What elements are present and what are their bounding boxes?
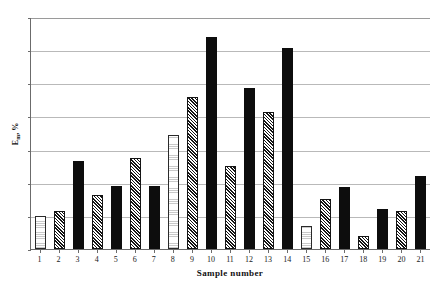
x-axis-tick-mark: [420, 250, 421, 253]
x-axis-tick-label: 12: [245, 255, 253, 264]
x-axis-tick-label: 17: [340, 255, 348, 264]
bar: [263, 112, 274, 249]
x-axis-tick-label: 9: [190, 255, 194, 264]
x-axis-tick-mark: [230, 250, 231, 253]
bar: [206, 37, 217, 249]
bar: [415, 176, 426, 249]
x-axis-tick-mark: [249, 250, 250, 253]
x-axis-tick-mark: [401, 250, 402, 253]
x-axis-tick-label: 16: [321, 255, 329, 264]
x-axis-tick: 12: [240, 250, 259, 266]
x-axis-tick-label: 15: [302, 255, 310, 264]
x-axis-tick: 9: [182, 250, 201, 266]
x-axis-tick-label: 6: [133, 255, 137, 264]
bar-slot: [31, 18, 50, 249]
x-axis-tick: 13: [259, 250, 278, 266]
x-axis-tick: 4: [87, 250, 106, 266]
bar-slot: [354, 18, 373, 249]
x-axis-tick-label: 11: [226, 255, 234, 264]
x-axis-tick: 11: [220, 250, 239, 266]
x-axis-tick: 15: [297, 250, 316, 266]
bar: [92, 195, 103, 249]
x-axis-tick-label: 7: [152, 255, 156, 264]
bar-slot: [240, 18, 259, 249]
x-axis-tick-mark: [116, 250, 117, 253]
bar-slot: [221, 18, 240, 249]
bar: [73, 161, 84, 249]
bar: [187, 97, 198, 249]
bar-chart: Em, % 05101520253035 1234567891011121314…: [0, 0, 438, 290]
bar: [168, 135, 179, 249]
bar-slot: [183, 18, 202, 249]
bar-slot: [202, 18, 221, 249]
x-axis-tick-label: 1: [38, 255, 42, 264]
x-axis-tick: 16: [316, 250, 335, 266]
bar: [339, 187, 350, 249]
bar-slot: [145, 18, 164, 249]
bar-slot: [107, 18, 126, 249]
bar-series: [31, 18, 430, 249]
x-axis-tick-label: 10: [207, 255, 215, 264]
x-axis-tick-mark: [382, 250, 383, 253]
bar-slot: [278, 18, 297, 249]
bar: [301, 226, 312, 249]
x-axis-tick-mark: [97, 250, 98, 253]
x-axis-tick-mark: [192, 250, 193, 253]
x-axis-tick: 7: [144, 250, 163, 266]
x-axis-tick: 3: [68, 250, 87, 266]
x-axis-tick: 19: [373, 250, 392, 266]
x-axis-tick: 1: [30, 250, 49, 266]
x-axis-ticks: 123456789101112131415161718192021: [30, 250, 430, 266]
bar: [225, 166, 236, 249]
x-axis-tick-label: 3: [76, 255, 80, 264]
x-axis-tick-label: 20: [397, 255, 405, 264]
x-axis-tick-mark: [135, 250, 136, 253]
x-axis-tick-mark: [325, 250, 326, 253]
bar-slot: [335, 18, 354, 249]
x-axis-tick-label: 21: [416, 255, 424, 264]
x-axis-tick-label: 14: [283, 255, 291, 264]
bar-slot: [373, 18, 392, 249]
x-axis-tick: 10: [201, 250, 220, 266]
x-axis-tick-mark: [306, 250, 307, 253]
bar: [149, 186, 160, 249]
bar-slot: [126, 18, 145, 249]
bar-slot: [50, 18, 69, 249]
x-axis-tick-mark: [363, 250, 364, 253]
x-axis-tick-label: 4: [95, 255, 99, 264]
bar-slot: [164, 18, 183, 249]
x-axis-tick: 14: [278, 250, 297, 266]
x-axis-tick: 20: [392, 250, 411, 266]
x-axis-tick: 5: [106, 250, 125, 266]
bar: [320, 199, 331, 249]
x-axis-tick-mark: [154, 250, 155, 253]
bar-slot: [392, 18, 411, 249]
bar: [54, 211, 65, 249]
x-axis-tick-label: 5: [114, 255, 118, 264]
bar-slot: [259, 18, 278, 249]
bar-slot: [411, 18, 430, 249]
x-axis-tick-mark: [59, 250, 60, 253]
bar-slot: [69, 18, 88, 249]
bar: [358, 236, 369, 249]
x-axis-tick-label: 19: [378, 255, 386, 264]
bar-slot: [316, 18, 335, 249]
x-axis-tick: 8: [163, 250, 182, 266]
bar-slot: [297, 18, 316, 249]
bar-slot: [88, 18, 107, 249]
x-axis-tick: 18: [354, 250, 373, 266]
x-axis-tick: 6: [125, 250, 144, 266]
plot-area: Em, % 05101520253035: [30, 18, 430, 250]
x-axis-tick-label: 8: [171, 255, 175, 264]
x-axis-tick-mark: [78, 250, 79, 253]
x-axis-tick: 17: [335, 250, 354, 266]
bar: [377, 209, 388, 249]
x-axis-tick: 2: [49, 250, 68, 266]
x-axis-tick-label: 13: [264, 255, 272, 264]
y-axis-label-suffix: , %: [11, 122, 20, 134]
bar: [396, 211, 407, 249]
bar: [130, 158, 141, 249]
x-axis-tick-mark: [211, 250, 212, 253]
bar: [244, 88, 255, 249]
x-axis-tick-label: 2: [57, 255, 61, 264]
